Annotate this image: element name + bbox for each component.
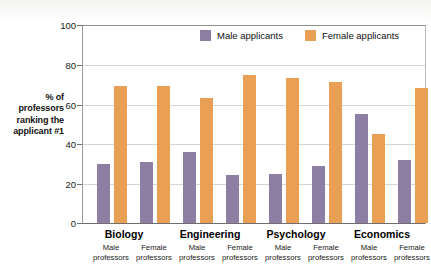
y-axis-title-line-3: ranking the bbox=[17, 115, 64, 125]
legend-label-male-applicants: Male applicants bbox=[217, 30, 283, 41]
male-applicants-swatch-icon bbox=[200, 30, 211, 41]
female-applicants-swatch-icon bbox=[305, 30, 316, 41]
bar-female-applicants-engineering-male-professors bbox=[200, 98, 213, 223]
bar-male-applicants-economics-male-professors bbox=[355, 114, 368, 223]
category-label-economics: Economics bbox=[340, 228, 424, 240]
y-tick-label-20: 20 bbox=[50, 179, 76, 190]
y-tick-label-60: 60 bbox=[50, 100, 76, 111]
bar-male-applicants-psychology-male-professors bbox=[269, 174, 282, 224]
bar-female-applicants-economics-female-professors bbox=[415, 88, 428, 223]
bar-female-applicants-biology-female-professors bbox=[157, 86, 170, 223]
bar-female-applicants-biology-male-professors bbox=[114, 86, 127, 223]
bar-male-applicants-engineering-female-professors bbox=[226, 175, 239, 223]
legend-entry-female-applicants: Female applicants bbox=[305, 30, 399, 41]
y-axis-title-line-4: applicant #1 bbox=[13, 126, 64, 136]
y-tick-label-80: 80 bbox=[50, 60, 76, 71]
y-tick-label-100: 100 bbox=[50, 20, 76, 31]
chart-legend: Male applicants Female applicants bbox=[200, 30, 399, 41]
gridline-80 bbox=[83, 65, 425, 66]
category-label-biology: Biology bbox=[82, 228, 166, 240]
bar-female-applicants-engineering-female-professors bbox=[243, 75, 256, 224]
legend-entry-male-applicants: Male applicants bbox=[200, 30, 283, 41]
plot-area bbox=[82, 25, 426, 224]
bar-male-applicants-psychology-female-professors bbox=[312, 166, 325, 223]
bar-male-applicants-engineering-male-professors bbox=[183, 152, 196, 223]
y-tick-label-0: 0 bbox=[50, 218, 76, 229]
bar-male-applicants-biology-male-professors bbox=[97, 164, 110, 223]
bar-female-applicants-economics-male-professors bbox=[372, 134, 385, 223]
category-label-psychology: Psychology bbox=[254, 228, 338, 240]
bar-male-applicants-economics-female-professors bbox=[398, 160, 411, 223]
rater-label-line-1: Female bbox=[385, 243, 431, 253]
y-axis-title: % of professors ranking the applicant #1 bbox=[2, 92, 64, 138]
grouped-bar-chart: % of professors ranking the applicant #1… bbox=[0, 0, 431, 271]
bar-female-applicants-psychology-male-professors bbox=[286, 78, 299, 223]
rater-label-line-2: professors bbox=[385, 253, 431, 263]
bar-female-applicants-psychology-female-professors bbox=[329, 82, 342, 223]
y-tick-label-40: 40 bbox=[50, 139, 76, 150]
rater-label-economics-female-professors: Femaleprofessors bbox=[385, 243, 431, 262]
bar-male-applicants-biology-female-professors bbox=[140, 162, 153, 223]
category-label-engineering: Engineering bbox=[168, 228, 252, 240]
legend-label-female-applicants: Female applicants bbox=[322, 30, 399, 41]
